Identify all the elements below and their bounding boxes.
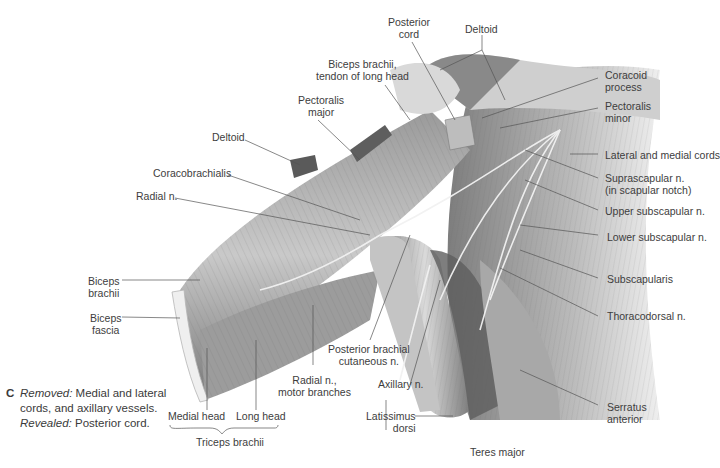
label-biceps-tendon: Biceps brachii,tendon of long head bbox=[316, 58, 409, 82]
label-radial-n-motor-branches: Radial n.,motor branches bbox=[278, 374, 351, 398]
label-radial-n: Radial n. bbox=[136, 190, 177, 202]
figure-caption: C Removed: Medial and lateral cords, and… bbox=[6, 386, 196, 431]
caption-removed-label: Removed: bbox=[20, 387, 72, 399]
label-lower-subscapular-n: Lower subscapular n. bbox=[607, 231, 707, 243]
label-pectoralis-major: Pectoralismajor bbox=[298, 94, 344, 118]
label-coracobrachialis: Coracobrachialis bbox=[153, 167, 231, 179]
label-axillary-n: Axillary n. bbox=[378, 378, 424, 390]
label-latissimus-dorsi: Latissimusdorsi bbox=[366, 410, 416, 434]
label-posterior-brachial-cutaneous-n: Posterior brachialcutaneous n. bbox=[328, 343, 410, 367]
label-deltoid-top: Deltoid bbox=[465, 23, 498, 35]
label-pectoralis-minor: Pectoralisminor bbox=[605, 100, 651, 124]
label-subscapularis: Subscapularis bbox=[607, 273, 673, 285]
label-suprascapular-n: Suprascapular n.(in scapular notch) bbox=[605, 172, 691, 196]
caption-revealed-text: Posterior cord. bbox=[72, 417, 150, 429]
caption-revealed-label: Revealed: bbox=[20, 417, 72, 429]
label-biceps-fascia: Bicepsfascia bbox=[90, 312, 122, 336]
label-upper-subscapular-n: Upper subscapular n. bbox=[605, 205, 705, 217]
label-teres-major: Teres major bbox=[470, 446, 525, 458]
label-lateral-medial-cords: Lateral and medial cords bbox=[605, 149, 720, 161]
label-coracoid-process: Coracoidprocess bbox=[605, 69, 647, 93]
label-thoracodorsal-n: Thoracodorsal n. bbox=[607, 310, 686, 322]
label-biceps-brachii: Bicepsbrachii bbox=[88, 275, 120, 299]
label-long-head: Long head bbox=[236, 410, 286, 422]
label-triceps-brachii: Triceps brachii bbox=[196, 436, 264, 448]
panel-letter: C bbox=[6, 386, 14, 401]
label-posterior-cord: Posteriorcord bbox=[388, 16, 430, 40]
label-serratus-anterior: Serratusanterior bbox=[607, 401, 647, 425]
label-deltoid-left: Deltoid bbox=[212, 131, 245, 143]
